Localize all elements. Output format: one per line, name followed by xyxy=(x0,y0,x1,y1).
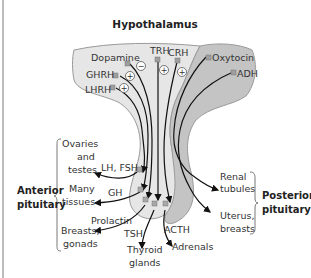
target-renal-2: tubules xyxy=(220,183,255,194)
label-adh: ADH xyxy=(237,68,258,79)
dopamine-sign: − xyxy=(138,62,145,71)
target-ovaries-2: and xyxy=(77,151,95,162)
target-thyroid-2: glands xyxy=(129,257,161,268)
target-breasts-1: Breasts, xyxy=(61,225,100,236)
target-uterus-1: Uterus, xyxy=(220,210,254,221)
target-uterus-2: breasts xyxy=(220,223,255,234)
target-ovaries-3: testes xyxy=(68,164,97,175)
target-thyroid-1: Thyroid xyxy=(126,244,163,255)
label-ghrh: GHRH xyxy=(86,69,114,80)
label-crh: CRH xyxy=(168,47,188,58)
target-many-2: tissues xyxy=(62,196,95,207)
label-dopamine: Dopamine xyxy=(91,52,140,63)
target-renal-1: Renal xyxy=(220,171,247,182)
label-oxytocin: Oxytocin xyxy=(212,52,254,63)
diagram-title: Hypothalamus xyxy=(112,18,197,30)
ghrh-sign: + xyxy=(127,72,134,81)
target-ovaries-1: Ovaries xyxy=(62,138,98,149)
label-tsh: TSH xyxy=(123,228,143,239)
posterior-pituitary-label-1: Posterior xyxy=(262,190,311,201)
target-adrenals: Adrenals xyxy=(172,241,213,252)
label-lhrh: LHRH xyxy=(85,84,111,95)
target-many-1: Many xyxy=(69,183,95,194)
label-trh: TRH xyxy=(149,45,170,56)
label-lh-fsh: LH, FSH xyxy=(101,162,138,173)
target-breasts-2: gonads xyxy=(63,238,98,249)
crh-sign: + xyxy=(179,68,186,77)
label-acth: ACTH xyxy=(164,224,190,235)
hypothalamus-pituitary-diagram: Hypothalamus xyxy=(0,0,311,278)
anterior-pituitary-label-2: pituitary xyxy=(17,199,66,210)
posterior-pituitary-label-2: pituitary xyxy=(262,204,311,215)
lhrh-sign: + xyxy=(121,84,128,93)
anterior-pituitary-label-1: Anterior xyxy=(17,185,64,196)
label-gh: GH xyxy=(108,187,123,198)
trh-sign: + xyxy=(161,66,168,75)
